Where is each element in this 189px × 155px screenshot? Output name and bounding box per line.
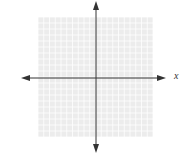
- y-axis-up-arrow-icon: [93, 1, 99, 10]
- x-axis-label: x: [174, 70, 178, 81]
- y-axis-down-arrow-icon: [93, 144, 99, 153]
- x-axis-right-arrow-icon: [157, 75, 166, 81]
- coordinate-plane: [0, 0, 189, 155]
- x-axis-left-arrow-icon: [21, 75, 30, 81]
